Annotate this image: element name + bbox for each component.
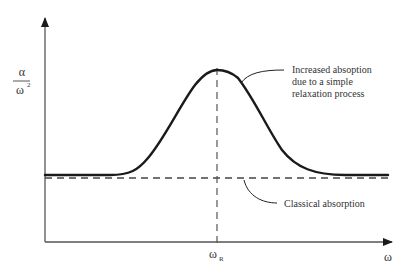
omega-r-symbol: ω	[209, 247, 217, 261]
curve-annotation-line-2: due to a simple	[292, 76, 353, 87]
curve-annotation: Increased absoption due to a simple rela…	[292, 64, 372, 99]
curve-annotation-leader	[241, 70, 284, 83]
baseline-annotation: Classical absorption	[284, 198, 365, 209]
y-label-superscript: 2	[27, 81, 31, 89]
x-axis-label: ω	[384, 250, 392, 264]
baseline-annotation-leader	[244, 180, 277, 203]
y-label-numerator: α	[19, 65, 26, 79]
curve-annotation-line-3: relaxation process	[292, 88, 365, 99]
y-axis-label: α ω 2	[13, 65, 31, 97]
absorption-diagram: α ω 2 ω ω R Increased absoption due to a…	[0, 0, 415, 270]
y-label-denominator: ω	[16, 83, 24, 97]
curve-annotation-line-1: Increased absoption	[292, 64, 372, 75]
omega-r-tick-label: ω R	[209, 247, 224, 263]
omega-r-subscript: R	[219, 255, 224, 263]
